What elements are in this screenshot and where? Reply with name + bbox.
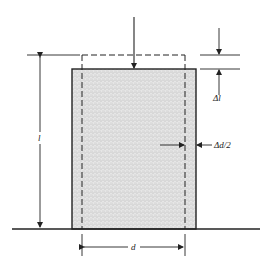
delta-length-dimension: Δl xyxy=(200,28,240,103)
specimen-compressed xyxy=(72,69,196,229)
diameter-dimension: d xyxy=(82,234,185,256)
diameter-label: d xyxy=(131,242,136,252)
delta-length-label: Δl xyxy=(212,93,221,103)
delta-diameter-label: Δd/2 xyxy=(213,140,231,150)
length-dimension: l xyxy=(36,57,44,227)
diagram-canvas: l Δl Δd/2 d xyxy=(0,0,271,266)
